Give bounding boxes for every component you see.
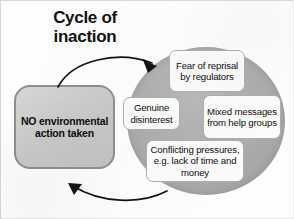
page-title-line-2: inaction	[26, 27, 144, 46]
factor-fear-of-reprisal: Fear of reprisal by regulators	[169, 50, 245, 92]
factor-genuine-disinterest: Genuine disinterest	[123, 97, 180, 130]
arrow-circle-to-box-icon	[68, 183, 167, 200]
factor-fear-of-reprisal-label: Fear of reprisal by regulators	[170, 60, 244, 83]
factor-mixed-messages: Mixed messages from help groups	[203, 95, 281, 139]
page-title: Cycle of inaction	[26, 8, 144, 46]
factor-conflicting-pressures: Conflicting pressures, e.g. lack of time…	[146, 140, 244, 182]
factor-mixed-messages-label: Mixed messages from help groups	[204, 106, 280, 129]
no-action-box-label: NO environmental action taken	[16, 115, 113, 140]
factor-genuine-disinterest-label: Genuine disinterest	[124, 102, 179, 125]
diagram-canvas: Cycle of inaction NO environmental actio…	[0, 0, 294, 219]
no-action-box: NO environmental action taken	[14, 85, 115, 169]
page-title-line-1: Cycle of	[53, 8, 117, 27]
factor-conflicting-pressures-label: Conflicting pressures, e.g. lack of time…	[147, 144, 243, 178]
